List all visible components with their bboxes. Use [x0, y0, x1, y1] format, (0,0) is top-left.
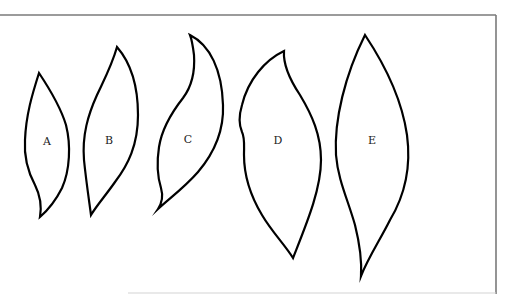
leaf-outline-c — [158, 35, 223, 209]
leaf-outline-b — [84, 47, 138, 215]
leaf-shape-c: C — [158, 35, 223, 209]
leaf-label-c: C — [184, 133, 192, 146]
leaf-shapes-figure: A B C D E — [0, 0, 510, 295]
leaf-label-b: B — [105, 134, 113, 147]
leaf-label-d: D — [274, 134, 283, 147]
leaf-label-a: A — [42, 135, 52, 148]
leaf-shape-a: A — [25, 73, 69, 217]
leaf-shape-e: E — [336, 35, 408, 276]
leaf-label-e: E — [368, 134, 376, 147]
leaf-outline-e — [336, 35, 408, 276]
leaf-shape-d: D — [240, 51, 321, 258]
leaf-shape-b: B — [84, 47, 138, 215]
leaf-outline-d — [240, 51, 321, 258]
